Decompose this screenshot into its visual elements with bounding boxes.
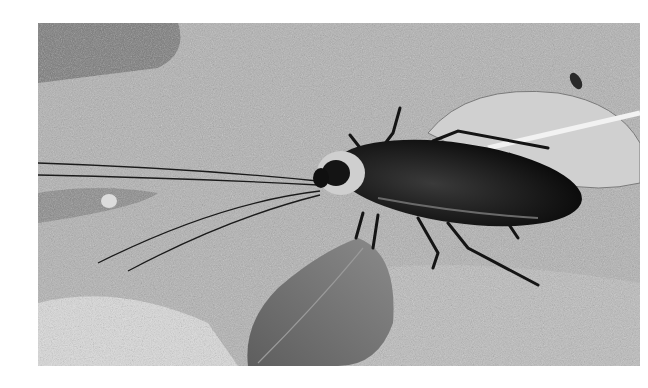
photo-scene — [38, 23, 640, 366]
pebble — [101, 194, 117, 208]
photograph — [38, 23, 640, 366]
cockroach-head — [313, 168, 329, 188]
